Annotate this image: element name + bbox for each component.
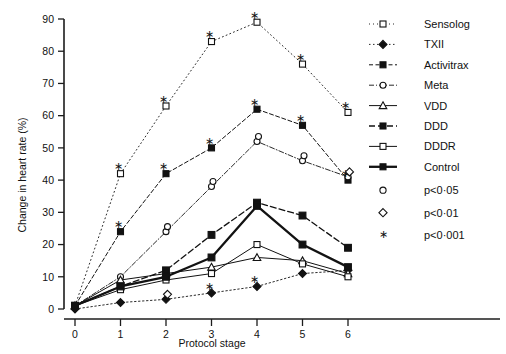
y-axis-title: Change in heart rate (%) bbox=[16, 118, 28, 233]
data-marker-star: ∗ bbox=[250, 273, 259, 285]
svg-text:∗: ∗ bbox=[250, 9, 259, 21]
data-marker-star: ∗ bbox=[205, 28, 214, 40]
x-tick-label: 2 bbox=[163, 328, 169, 340]
data-marker-star: ∗ bbox=[296, 112, 305, 124]
svg-text:∗: ∗ bbox=[296, 112, 305, 124]
y-tick-label: 10 bbox=[42, 271, 54, 283]
data-marker-star: ∗ bbox=[114, 160, 123, 172]
data-marker-open-square bbox=[254, 242, 260, 248]
svg-text:∗: ∗ bbox=[296, 51, 305, 63]
data-marker-filled-square bbox=[299, 212, 306, 219]
svg-text:∗: ∗ bbox=[159, 93, 168, 105]
svg-text:∗: ∗ bbox=[114, 160, 123, 172]
data-marker-filled-square bbox=[380, 62, 386, 68]
svg-text:∗: ∗ bbox=[250, 96, 259, 108]
data-marker-filled-square bbox=[163, 273, 170, 280]
data-marker-filled-square bbox=[72, 302, 79, 309]
y-tick-label: 50 bbox=[42, 142, 54, 154]
data-marker-star: ∗ bbox=[379, 228, 388, 240]
data-marker-open-circle bbox=[256, 133, 262, 139]
legend-item-txii[interactable]: TXII bbox=[369, 38, 444, 50]
data-marker-star: ∗ bbox=[250, 96, 259, 108]
data-marker-filled-square bbox=[208, 254, 215, 261]
legend-item-dddr[interactable]: DDDR bbox=[369, 140, 456, 152]
data-marker-filled-square bbox=[380, 164, 386, 170]
y-tick-label: 30 bbox=[42, 206, 54, 218]
data-marker-open-triangle bbox=[253, 254, 261, 261]
svg-text:∗: ∗ bbox=[205, 135, 214, 147]
legend-label: Activitrax bbox=[424, 59, 469, 71]
data-marker-filled-square bbox=[208, 231, 215, 238]
svg-text:∗: ∗ bbox=[205, 280, 214, 292]
data-marker-open-square bbox=[209, 271, 215, 277]
data-marker-filled-square bbox=[345, 244, 352, 251]
y-tick-label: 80 bbox=[42, 45, 54, 57]
legend-significance-label: p<0·01 bbox=[424, 207, 459, 219]
legend-label: TXII bbox=[424, 38, 444, 50]
data-marker-open-circle bbox=[210, 179, 216, 185]
y-tick-label: 40 bbox=[42, 174, 54, 186]
svg-text:∗: ∗ bbox=[114, 218, 123, 230]
x-tick-label: 0 bbox=[72, 328, 78, 340]
legend-significance-item: ∗p<0·001 bbox=[379, 228, 465, 241]
data-marker-open-circle bbox=[380, 82, 386, 88]
legend-significance-item: p<0·01 bbox=[379, 207, 459, 219]
data-marker-star: ∗ bbox=[159, 160, 168, 172]
svg-text:∗: ∗ bbox=[205, 28, 214, 40]
data-marker-open-square bbox=[345, 274, 351, 280]
legend-significance-label: p<0·001 bbox=[424, 229, 465, 241]
x-axis-title: Protocol stage bbox=[178, 337, 245, 349]
svg-text:∗: ∗ bbox=[379, 228, 388, 240]
legend-label: Meta bbox=[424, 79, 449, 91]
y-tick-label: 0 bbox=[48, 303, 54, 315]
y-tick-label: 70 bbox=[42, 77, 54, 89]
legend-item-ddd[interactable]: DDD bbox=[369, 120, 448, 132]
data-marker-open-square bbox=[380, 21, 386, 27]
legend-item-activitrax[interactable]: Activitrax bbox=[369, 59, 469, 71]
legend-label: VDD bbox=[424, 100, 447, 112]
x-axis: 0123456 bbox=[64, 319, 500, 340]
data-marker-star: ∗ bbox=[341, 99, 350, 111]
chart-figure: 0102030405060708090 0123456 ∗∗∗∗∗∗∗∗∗∗∗∗… bbox=[0, 0, 506, 354]
y-tick-label: 20 bbox=[42, 238, 54, 250]
data-marker-star: ∗ bbox=[250, 9, 259, 21]
series-dddr bbox=[72, 242, 351, 309]
x-tick-label: 1 bbox=[118, 328, 124, 340]
data-marker-open-square bbox=[380, 143, 386, 149]
data-marker-star: ∗ bbox=[114, 218, 123, 230]
legend-item-control[interactable]: Control bbox=[369, 161, 459, 173]
svg-text:∗: ∗ bbox=[341, 99, 350, 111]
data-marker-star: ∗ bbox=[159, 93, 168, 105]
legend-item-sensolog[interactable]: Sensolog bbox=[369, 18, 470, 30]
data-marker-star: ∗ bbox=[205, 280, 214, 292]
data-marker-filled-square bbox=[345, 264, 352, 271]
svg-text:∗: ∗ bbox=[250, 273, 259, 285]
legend-significance-item: p<0·05 bbox=[380, 184, 459, 196]
data-marker-star: ∗ bbox=[296, 51, 305, 63]
data-marker-filled-diamond bbox=[299, 270, 307, 278]
legend-label: Sensolog bbox=[424, 18, 470, 30]
legend-item-vdd[interactable]: VDD bbox=[369, 100, 447, 112]
data-marker-open-circle bbox=[380, 187, 386, 193]
significance-layer: ∗∗∗∗∗∗∗∗∗∗∗∗∗∗ bbox=[114, 9, 354, 298]
svg-text:∗: ∗ bbox=[159, 160, 168, 172]
legend-significance-label: p<0·05 bbox=[424, 184, 459, 196]
data-marker-filled-diamond bbox=[379, 40, 387, 48]
data-marker-filled-square bbox=[163, 267, 170, 274]
legend-label: Control bbox=[424, 161, 459, 173]
data-marker-filled-square bbox=[380, 123, 386, 129]
x-tick-label: 4 bbox=[254, 328, 260, 340]
data-marker-filled-square bbox=[117, 283, 124, 290]
data-marker-filled-diamond bbox=[117, 299, 125, 307]
legend-label: DDDR bbox=[424, 140, 456, 152]
data-marker-open-circle bbox=[301, 153, 307, 159]
data-marker-open-diamond bbox=[379, 209, 387, 217]
y-tick-label: 90 bbox=[42, 13, 54, 25]
y-tick-label: 60 bbox=[42, 109, 54, 121]
x-tick-label: 6 bbox=[345, 328, 351, 340]
data-marker-star: ∗ bbox=[205, 135, 214, 147]
x-tick-label: 5 bbox=[300, 328, 306, 340]
legend-item-meta[interactable]: Meta bbox=[369, 79, 449, 91]
line-chart: 0102030405060708090 0123456 ∗∗∗∗∗∗∗∗∗∗∗∗… bbox=[0, 0, 506, 354]
legend-label: DDD bbox=[424, 120, 448, 132]
